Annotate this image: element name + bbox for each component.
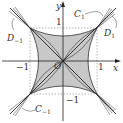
leader-d1 [112,16,117,28]
origin-label: O [54,62,61,71]
leader-d-neg1 [12,18,14,30]
curve-label-c-neg1: C−1 [35,105,51,115]
diagram: y x O 1 −1 1 −1 C1 D1 D−1 C−1 [0,0,123,123]
leader-c1 [85,11,103,16]
tick-y-neg: −1 [66,96,79,105]
tick-y-pos: 1 [56,18,62,27]
x-axis-label: x [113,64,118,73]
y-axis-arrow-icon [61,1,65,7]
curve-label-d1: D1 [104,29,115,39]
tick-x-pos: 1 [98,63,104,72]
y-axis-label: y [56,2,61,11]
leader-c-neg1 [22,108,35,111]
tick-x-neg: −1 [16,63,29,72]
curve-label-d-neg1: D−1 [7,34,23,44]
curve-label-c1: C1 [74,10,85,20]
